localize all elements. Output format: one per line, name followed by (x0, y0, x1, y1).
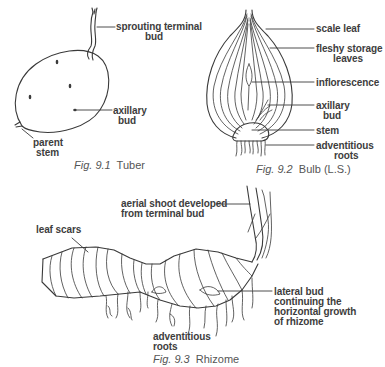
caption-number: Fig. 9.3 (153, 353, 190, 365)
caption-title: Rhizome (196, 353, 239, 365)
label-aerial-shoot-l2: from terminal bud (121, 209, 204, 219)
diagram-canvas: sprouting terminal bud axillary bud pare… (0, 0, 385, 367)
caption-fig-9-3: Fig. 9.3 Rhizome (153, 353, 239, 365)
label-leaf-scars: leaf scars (36, 225, 81, 235)
label-lateral-bud-l4: of rhizome (274, 317, 324, 327)
label-rhizome-adventitious-l2: roots (153, 342, 178, 352)
